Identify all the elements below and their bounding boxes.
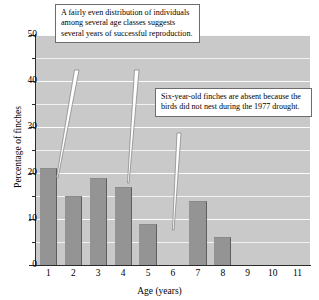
y-tick-label-40: 40 [28, 76, 38, 86]
y-tick-minor-45 [32, 58, 36, 59]
x-tick-label-6: 6 [161, 269, 186, 279]
y-tick-label-30: 30 [28, 122, 38, 132]
x-tick-label-8: 8 [210, 269, 235, 279]
gridline-20 [36, 173, 310, 174]
bar-age-4 [115, 187, 132, 265]
bar-age-5 [139, 224, 156, 265]
y-axis-title: Percentage of finches [13, 82, 23, 212]
y-tick-minor-15 [32, 196, 36, 197]
bar-age-8 [214, 237, 231, 265]
annotation-callout-six-year-absent: Six-year-old finches are absent because … [155, 88, 312, 117]
y-tick-minor-5 [32, 242, 36, 243]
x-tick-label-11: 11 [285, 269, 310, 279]
y-tick-minor-35 [32, 104, 36, 105]
gridline-25 [36, 150, 310, 151]
x-axis-title: Age (years) [0, 286, 319, 296]
gridline-40 [36, 81, 310, 82]
x-tick-label-3: 3 [86, 269, 111, 279]
x-axis-line [35, 265, 311, 266]
x-tick-label-4: 4 [111, 269, 136, 279]
x-tick-label-7: 7 [186, 269, 211, 279]
y-tick-label-50: 50 [28, 30, 38, 40]
gridline-45 [36, 58, 310, 59]
bar-age-2 [65, 196, 82, 265]
plot-area [36, 35, 310, 265]
bar-age-3 [90, 178, 107, 265]
annotation-callout-even-distribution: A fairly even distribution of individual… [55, 4, 200, 43]
y-tick-label-10: 10 [28, 214, 38, 224]
bar-age-1 [40, 168, 57, 265]
bar-age-7 [189, 201, 206, 265]
gridline-30 [36, 127, 310, 128]
x-tick-label-2: 2 [61, 269, 86, 279]
x-tick-label-9: 9 [235, 269, 260, 279]
x-tick-label-10: 10 [260, 269, 285, 279]
x-tick-label-1: 1 [36, 269, 61, 279]
bar-chart-figure: Percentage of finches Age (years) A fair… [0, 0, 319, 300]
y-tick-label-20: 20 [28, 168, 38, 178]
y-tick-minor-25 [32, 150, 36, 151]
x-tick-label-5: 5 [136, 269, 161, 279]
